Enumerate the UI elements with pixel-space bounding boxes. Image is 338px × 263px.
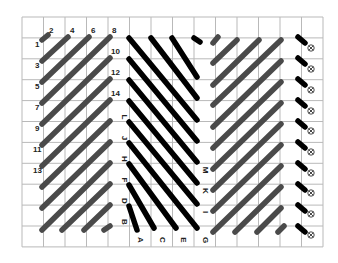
stitch-number-label: 8 [112,26,117,35]
stitch-letter-label: A [136,237,145,243]
stitch [278,226,284,232]
stitch-letter-label: I [201,211,210,213]
stitch [129,143,197,228]
circled-cross-icon [308,170,314,176]
stitch-number-label: 13 [33,166,42,175]
stitch [129,59,197,141]
center-black-stitches [129,38,200,230]
stitch [298,163,305,169]
stitch-letter-label: J [120,136,129,140]
cross-symbols [308,45,314,238]
circled-cross-icon [308,149,314,155]
stitch-letter-label: K [201,188,210,194]
stitch [213,40,259,85]
stitch-number-label: 4 [70,26,75,35]
stitch-letter-label: E [179,237,188,243]
stitch-number-label: 11 [33,145,42,154]
stitch [213,37,218,43]
stitch [104,226,110,230]
stitch-number-label: 14 [111,89,120,98]
stitch-letter-label: B [120,219,129,225]
stitch [213,40,237,63]
stitch-letter-label: C [158,237,167,243]
stitch-number-label: 1 [35,40,40,49]
stitch [257,208,281,232]
stitch-number-label: 10 [111,47,120,56]
circled-cross-icon [308,66,314,72]
stitches [42,35,305,232]
stitch [298,184,305,190]
stitch-number-label: 7 [35,103,40,112]
stitch-letter-label: D [120,198,129,204]
circled-cross-icon [308,232,314,238]
stitch-letter-label: H [120,156,129,162]
stitch [298,226,305,232]
circled-cross-icon [308,108,314,114]
stitch-number-label: 2 [49,26,54,35]
stitch [42,35,48,40]
stitch-diagram: 1234567891011121314LJHFDBACEGIKM [0,0,338,263]
stitch-letter-label: F [120,178,129,183]
right-grey-stitches [213,37,284,232]
stitch [194,38,200,42]
left-grey-stitches [42,35,110,230]
stitch [298,205,305,211]
circled-cross-icon [308,45,314,51]
circled-cross-icon [308,128,314,134]
circled-cross-icon [308,190,314,196]
stitch-letter-label: L [120,115,129,120]
circled-cross-icon [308,211,314,217]
stitch-letter-label: M [201,167,210,174]
stitch-number-label: 9 [35,124,40,133]
stitch-number-label: 3 [35,61,40,70]
stitch-number-label: 12 [111,68,120,77]
stitch-number-label: 6 [91,26,96,35]
stitch-number-label: 5 [35,82,40,91]
stitch-letter-label: G [201,237,210,243]
circled-cross-icon [308,87,314,93]
